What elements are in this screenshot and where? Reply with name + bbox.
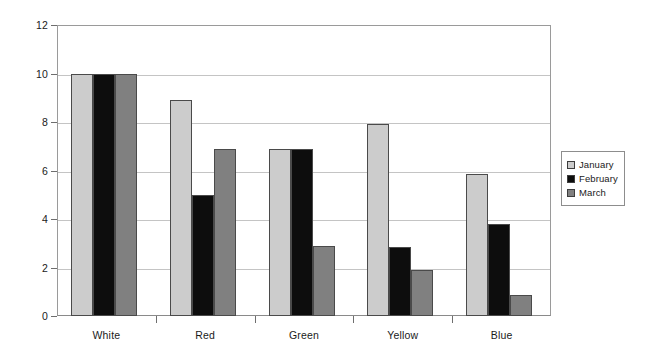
x-tick-mark (255, 316, 256, 323)
bars-layer (58, 26, 550, 316)
bar-red-february[interactable] (192, 195, 214, 316)
bar-yellow-february[interactable] (389, 247, 411, 316)
bar-group-yellow (354, 26, 453, 316)
y-tick-mark (51, 74, 57, 75)
bar-green-march[interactable] (313, 246, 335, 316)
x-tick-mark (353, 316, 354, 323)
bar-blue-february[interactable] (488, 224, 510, 316)
bar-green-february[interactable] (291, 149, 313, 316)
bar-white-february[interactable] (93, 74, 115, 317)
x-axis: WhiteRedGreenYellowBlue (57, 316, 551, 356)
legend-item-february[interactable]: February (567, 172, 620, 185)
legend-swatch-icon (567, 189, 575, 197)
x-tick-mark (156, 316, 157, 323)
legend: JanuaryFebruaryMarch (561, 151, 625, 206)
y-tick-label: 4 (26, 214, 48, 224)
y-tick-label: 2 (26, 263, 48, 273)
bar-blue-january[interactable] (466, 174, 488, 316)
x-tick-label-yellow: Yellow (358, 329, 448, 341)
legend-swatch-icon (567, 175, 575, 183)
bar-yellow-march[interactable] (411, 270, 433, 316)
y-tick-label: 8 (26, 117, 48, 127)
legend-item-march[interactable]: March (567, 186, 620, 199)
bar-red-january[interactable] (170, 100, 192, 316)
y-tick-mark (51, 219, 57, 220)
y-axis: 024681012 (24, 25, 48, 316)
y-tick-mark (51, 171, 57, 172)
x-tick-mark (452, 316, 453, 323)
bar-group-blue (453, 26, 552, 316)
bar-group-red (157, 26, 256, 316)
y-tick-mark (51, 25, 57, 26)
y-tick-label: 12 (26, 20, 48, 30)
bar-green-january[interactable] (269, 149, 291, 316)
y-tick-mark (51, 122, 57, 123)
y-tick-label: 0 (26, 311, 48, 321)
legend-label: February (579, 173, 618, 184)
y-tick-mark (51, 316, 57, 317)
y-tick-label: 10 (26, 69, 48, 79)
bar-white-march[interactable] (115, 74, 137, 317)
legend-item-january[interactable]: January (567, 158, 620, 171)
x-tick-label-green: Green (259, 329, 349, 341)
bar-group-white (58, 26, 157, 316)
bar-yellow-january[interactable] (367, 124, 389, 316)
bar-group-green (256, 26, 355, 316)
y-tick-label: 6 (26, 166, 48, 176)
x-tick-label-red: Red (160, 329, 250, 341)
legend-label: March (579, 187, 606, 198)
legend-swatch-icon (567, 161, 575, 169)
legend-label: January (579, 159, 614, 170)
bar-blue-march[interactable] (510, 295, 532, 316)
y-tick-mark (51, 268, 57, 269)
bar-white-january[interactable] (71, 74, 93, 317)
x-tick-label-white: White (61, 329, 151, 341)
bar-red-march[interactable] (214, 149, 236, 316)
x-tick-label-blue: Blue (457, 329, 547, 341)
bar-chart: 024681012 WhiteRedGreenYellowBlue Januar… (0, 0, 656, 356)
